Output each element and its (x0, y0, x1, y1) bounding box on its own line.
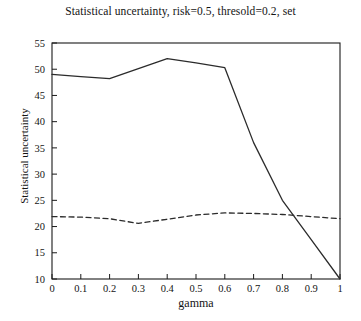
y-tick-label: 55 (35, 38, 46, 49)
x-tick-label: 0.6 (218, 283, 231, 294)
y-tick-label: 30 (35, 169, 46, 180)
x-tick-label: 0.5 (189, 283, 202, 294)
x-tick-label: 0.2 (103, 283, 116, 294)
x-tick-label: 1 (337, 283, 342, 294)
chart-figure: Statistical uncertainty, risk=0.5, thres… (0, 0, 361, 321)
plot-frame (52, 43, 340, 279)
x-tick-label: 0.4 (161, 283, 175, 294)
plot-area: 10152025303540455055 00.10.20.30.40.50.6… (0, 0, 361, 321)
x-tick-label: 0 (49, 283, 54, 294)
x-tick-label: 0.3 (132, 283, 145, 294)
y-tick-label: 45 (35, 90, 46, 101)
y-tick-label: 10 (35, 274, 46, 285)
x-tick-label: 0.7 (247, 283, 260, 294)
x-tick-label: 0.1 (74, 283, 87, 294)
y-tick-label: 40 (35, 116, 46, 127)
x-tick-label: 0.8 (276, 283, 289, 294)
x-tick-label: 0.9 (305, 283, 318, 294)
y-tick-label: 20 (35, 221, 46, 232)
x-axis-label: gamma (52, 296, 340, 311)
y-tick-label: 25 (35, 195, 46, 206)
y-tick-label: 15 (35, 247, 46, 258)
y-tick-label: 50 (35, 64, 46, 75)
y-tick-label: 35 (35, 143, 46, 154)
